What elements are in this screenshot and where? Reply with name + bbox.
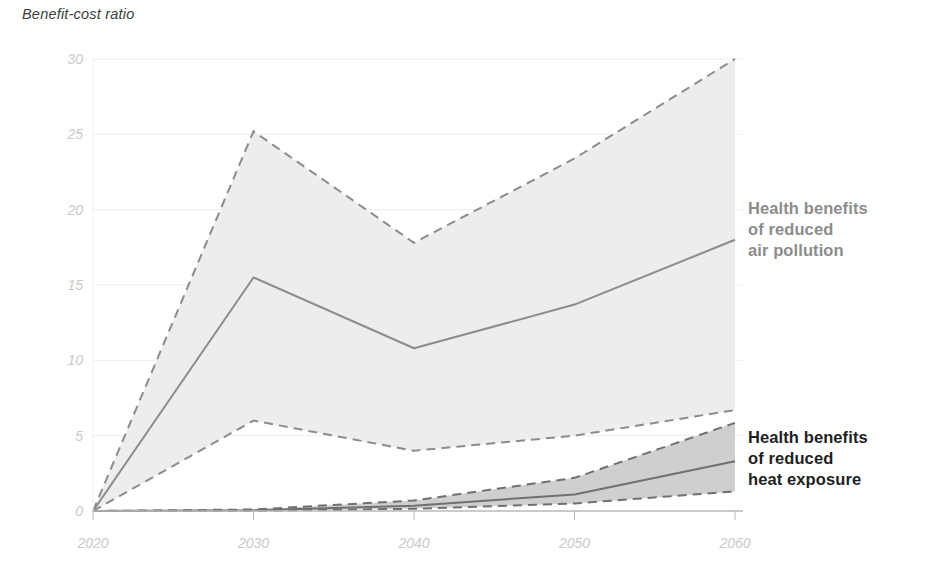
x-tick-label: 2030 xyxy=(219,535,289,551)
y-tick-label: 20 xyxy=(43,202,83,218)
x-tick-label: 2060 xyxy=(700,535,770,551)
y-tick-label: 15 xyxy=(43,277,83,293)
x-tick-label: 2040 xyxy=(379,535,449,551)
series-label-heat-exposure: Health benefits of reduced heat exposure xyxy=(748,427,868,490)
y-axis-title: Benefit-cost ratio xyxy=(22,6,134,22)
x-tick-label: 2050 xyxy=(540,535,610,551)
x-tick-marks xyxy=(93,511,735,520)
x-tick-label: 2020 xyxy=(58,535,128,551)
y-tick-label: 10 xyxy=(43,352,83,368)
y-tick-label: 0 xyxy=(43,503,83,519)
y-tick-label: 5 xyxy=(43,428,83,444)
y-tick-label: 25 xyxy=(43,126,83,142)
series-label-air-pollution: Health benefits of reduced air pollution xyxy=(748,198,868,261)
y-tick-label: 30 xyxy=(43,51,83,67)
benefit-cost-ratio-chart: Benefit-cost ratio 051015202530 20202030… xyxy=(0,0,944,574)
